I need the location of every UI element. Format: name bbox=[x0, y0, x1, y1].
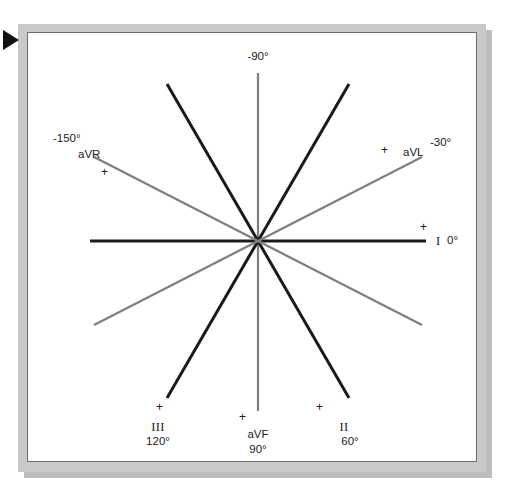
label-minus-90-degrees: -90° bbox=[226, 50, 290, 63]
polarity-plus-avr: + bbox=[101, 166, 108, 178]
label-lead-i-degrees: 0° bbox=[447, 234, 458, 247]
polarity-plus-lead-iii: + bbox=[156, 401, 163, 413]
lead-i-name-text: I bbox=[436, 234, 440, 248]
lead-iii-degrees-text: 120° bbox=[146, 435, 170, 447]
polarity-plus-lead-i: + bbox=[420, 221, 427, 233]
avr-plus-text: + bbox=[101, 165, 108, 179]
label-lead-i-name: I bbox=[436, 234, 440, 248]
avf-name-text: aVF bbox=[247, 428, 268, 440]
lead-ii-name-text: II bbox=[340, 420, 349, 434]
label-avr-name: aVR bbox=[78, 148, 100, 161]
lead-ii-degrees-text: 60° bbox=[341, 435, 358, 447]
label-lead-iii-name: III bbox=[140, 420, 176, 434]
label-avl-name: aVL bbox=[403, 146, 423, 159]
lead-i-degrees-text: 0° bbox=[447, 234, 458, 246]
label-lead-ii-degrees: 60° bbox=[320, 435, 380, 448]
avl-name-text: aVL bbox=[403, 146, 423, 158]
label-lead-ii-name: II bbox=[326, 420, 362, 434]
diagram-canvas: -90° -150° aVR + + aVL -30° bbox=[28, 33, 476, 461]
label-avf-degrees: 90° bbox=[228, 443, 288, 456]
avf-plus-text: + bbox=[239, 410, 246, 424]
avr-degrees-text: -150° bbox=[53, 132, 81, 144]
figure-page: -90° -150° aVR + + aVL -30° bbox=[0, 0, 511, 485]
label-avl-degrees: -30° bbox=[430, 136, 451, 149]
polarity-plus-lead-ii: + bbox=[316, 401, 323, 413]
label-avr-degrees: -150° bbox=[53, 132, 81, 145]
lead-i-plus-text: + bbox=[420, 220, 427, 234]
avl-plus-text: + bbox=[381, 143, 388, 157]
polarity-plus-avf: + bbox=[239, 411, 246, 423]
avl-degrees-text: -30° bbox=[430, 136, 451, 148]
lead-iii-plus-text: + bbox=[156, 400, 163, 414]
lead-ii-plus-text: + bbox=[316, 400, 323, 414]
label-avf-name: aVF bbox=[228, 428, 288, 441]
lead-axes-svg bbox=[28, 33, 476, 461]
lead-iii-name-text: III bbox=[151, 420, 164, 434]
play-triangle-icon bbox=[3, 30, 19, 50]
avr-name-text: aVR bbox=[78, 148, 100, 160]
label-lead-iii-degrees: 120° bbox=[128, 435, 188, 448]
polarity-plus-avl: + bbox=[381, 144, 388, 156]
minus-90-degrees-text: -90° bbox=[247, 50, 268, 62]
hexaxial-diagram: -90° -150° aVR + + aVL -30° bbox=[27, 32, 477, 462]
avf-degrees-text: 90° bbox=[249, 443, 266, 455]
